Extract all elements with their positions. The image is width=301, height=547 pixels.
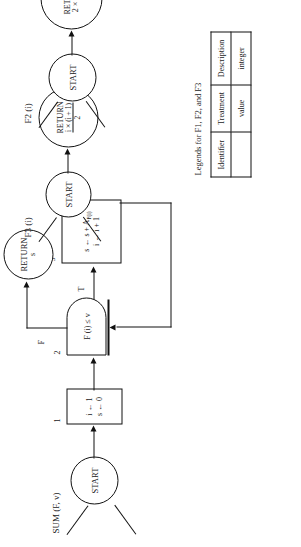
f3-arrowhead bbox=[64, 148, 70, 154]
sum-arrowhead-true bbox=[90, 266, 96, 272]
sum-entry-line-upper bbox=[66, 505, 88, 535]
legend-title: Legends for F1, F2, and F3 bbox=[192, 82, 202, 175]
f3-entry-line-lower bbox=[82, 216, 101, 241]
legend-header-row: Identifier Treatment Description bbox=[211, 32, 231, 177]
sum-false-line-right bbox=[26, 286, 27, 328]
figure-f3: F3 (i) START RETURN i × (i + 1) 2 bbox=[0, 127, 190, 247]
sum-arrow-box1-decision bbox=[93, 362, 94, 390]
scanned-page: SUM (F, v) START 1 i ← 1 s ← 0 2 F (i) ≤… bbox=[0, 0, 301, 547]
sum-start-label: START bbox=[90, 467, 99, 493]
sum-arrow-start-box1 bbox=[93, 430, 94, 458]
sum-decision: F (i) ≤ v bbox=[66, 297, 106, 355]
figure-sum: SUM (F, v) START 1 i ← 1 s ← 0 2 F (i) ≤… bbox=[0, 247, 301, 547]
f2-entry-line-upper bbox=[38, 101, 58, 128]
legend-header-identifier: Identifier bbox=[211, 132, 231, 177]
sum-decision-number: 2 bbox=[52, 350, 61, 354]
f3-arrow-line bbox=[67, 153, 68, 173]
legend-header-description: Description bbox=[211, 32, 231, 84]
figure-f2: F2 (i) START RETURN 2 × i − 1 bbox=[0, 7, 190, 137]
sum-return-value: s bbox=[28, 252, 36, 255]
f3-entry-line-upper bbox=[38, 217, 57, 242]
sum-false-label: F bbox=[36, 340, 45, 344]
f2-entry-line-lower bbox=[85, 100, 105, 127]
sum-loop-up bbox=[116, 326, 171, 327]
f2-return-value: 2 × i − 1 bbox=[71, 0, 79, 12]
f3-start-node: START bbox=[45, 171, 91, 217]
f2-title: F2 (i) bbox=[22, 103, 32, 123]
legend-cell-description: integer bbox=[231, 32, 251, 84]
legend-cell-identifier bbox=[231, 132, 251, 177]
legend-block: Legends for F1, F2, and F3 Identifier Tr… bbox=[190, 0, 301, 175]
f2-return-node: RETURN 2 × i − 1 bbox=[40, 0, 102, 29]
sum-arrowhead-decision bbox=[90, 357, 96, 363]
sum-box1: i ← 1 s ← 0 bbox=[66, 388, 122, 424]
sum-false-line-up bbox=[26, 327, 67, 328]
f3-title: F3 (i) bbox=[22, 217, 32, 237]
sum-arrow-true bbox=[93, 271, 94, 299]
sum-box1-line2: s ← 0 bbox=[94, 396, 104, 415]
sum-entry-line-lower bbox=[114, 504, 136, 534]
sum-true-label: T bbox=[76, 286, 85, 291]
f2-arrow-line bbox=[71, 35, 72, 55]
sum-loop-arrowhead bbox=[109, 324, 115, 330]
legend-cell-treatment: value bbox=[231, 84, 251, 132]
sum-arrowhead-box1 bbox=[90, 425, 96, 431]
f3-start-label: START bbox=[64, 181, 73, 207]
sum-false-arrowhead bbox=[23, 281, 29, 287]
legend-table: Identifier Treatment Description value i… bbox=[210, 31, 251, 177]
sum-box1-line1: i ← 1 bbox=[84, 397, 94, 415]
legend-row: value integer bbox=[231, 32, 251, 177]
f2-start-node: START bbox=[48, 53, 96, 101]
sum-start-node: START bbox=[70, 456, 118, 504]
legend-header-treatment: Treatment bbox=[211, 84, 231, 132]
sum-decision-entry-bar bbox=[107, 299, 109, 355]
f2-arrowhead bbox=[68, 30, 74, 36]
sum-decision-text: F (i) ≤ v bbox=[82, 313, 91, 339]
sum-title: SUM (F, v) bbox=[50, 492, 60, 533]
f2-start-label: START bbox=[68, 64, 77, 90]
sum-box1-number: 1 bbox=[52, 418, 61, 422]
